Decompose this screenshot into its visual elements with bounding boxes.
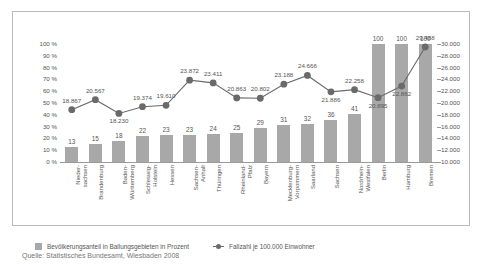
y-right-tick-16000: 16.000 — [441, 124, 481, 130]
x-axis-label: Schleswig-Holstein — [145, 165, 159, 229]
line-value-label: 22.862 — [385, 91, 419, 97]
y-left-tick-70: 70 % — [31, 76, 57, 82]
y-right-tick-28000: 28.000 — [441, 53, 481, 59]
y-right-tickmark — [437, 56, 441, 57]
x-axis-label: Thüringen — [216, 165, 223, 229]
line-value-label: 24.666 — [290, 63, 324, 69]
line-marker — [375, 94, 382, 101]
line-marker — [163, 102, 170, 109]
x-axis-label-line: Thüringen — [216, 165, 223, 229]
x-axis-baseline — [60, 162, 439, 163]
x-axis-label: Saarland — [310, 165, 317, 229]
y-right-tickmark — [437, 79, 441, 80]
x-axis-label-line: Brandenburg — [98, 165, 105, 229]
x-axis-label-line: Holstein — [152, 165, 159, 229]
chart-figure: 0 %10 %20 %30 %40 %50 %60 %70 %80 %90 %1… — [0, 0, 484, 276]
y-left-tick-0: 0 % — [31, 159, 57, 165]
y-right-tick-22000: 22.000 — [441, 88, 481, 94]
legend-bar-label: Bevölkerungsanteil in Ballungsgebieten i… — [47, 243, 189, 250]
x-axis-label-line: Westfalen — [364, 165, 371, 229]
line-marker — [68, 106, 75, 113]
x-axis-label: Mecklenburg-Vorpommern — [287, 165, 301, 229]
x-axis-label-line: Württemberg — [129, 165, 136, 229]
line-value-label: 23.411 — [196, 71, 230, 77]
line-value-label: 20.895 — [361, 103, 395, 109]
legend-bar-swatch-icon — [35, 243, 42, 250]
legend-line-label: Fallzahl je 100.000 Einwohner — [229, 243, 315, 250]
x-axis-label: Nordrhein-Westfalen — [358, 165, 372, 229]
y-left-tick-60: 60 % — [31, 88, 57, 94]
y-right-tick-12000: 12.000 — [441, 147, 481, 153]
line-value-label: 20.802 — [243, 86, 277, 92]
y-right-tickmark — [437, 150, 441, 151]
x-axis-label: Bremen — [428, 165, 435, 229]
line-marker — [257, 95, 264, 102]
line-marker — [280, 81, 287, 88]
y-left-tick-20: 20 % — [31, 135, 57, 141]
y-right-tick-20000: 20.000 — [441, 100, 481, 106]
x-axis-label: Berlin — [381, 165, 388, 229]
x-axis-label: Hessen — [169, 165, 176, 229]
y-left-tick-10: 10 % — [31, 147, 57, 153]
y-right-tickmark — [437, 91, 441, 92]
line-marker — [304, 72, 311, 79]
x-axis-label-line: Anhalt — [199, 165, 206, 229]
x-axis-label-line: Berlin — [381, 165, 388, 229]
line-value-label: 20.567 — [78, 88, 112, 94]
line-marker — [210, 79, 217, 86]
line-value-label: 21.886 — [314, 97, 348, 103]
line-marker — [92, 96, 99, 103]
y-right-tickmark — [437, 138, 441, 139]
x-axis-label-line: Hessen — [169, 165, 176, 229]
line-value-label: 18.230 — [102, 118, 136, 124]
y-right-tick-26000: 26.000 — [441, 65, 481, 71]
legend-line-marker-icon — [213, 243, 224, 250]
y-right-tickmark — [437, 44, 441, 45]
line-marker — [328, 88, 335, 95]
x-axis-label-line: Bremen — [428, 165, 435, 229]
y-left-tick-40: 40 % — [31, 112, 57, 118]
x-axis-label: Brandenburg — [98, 165, 105, 229]
x-axis-label-line: Saarland — [310, 165, 317, 229]
line-value-label: 22.258 — [338, 78, 372, 84]
x-axis-label: Rheinland-Pfalz — [240, 165, 254, 229]
line-value-label: 18.867 — [55, 98, 89, 104]
line-value-label: 19.610 — [149, 93, 183, 99]
y-right-tick-18000: 18.000 — [441, 112, 481, 118]
line-series: 18.86720.56718.23019.37419.61023.87223.4… — [60, 44, 437, 162]
y-left-tick-100: 100 % — [31, 41, 57, 47]
y-right-tickmark — [437, 103, 441, 104]
x-axis-label-line: Vorpommern — [294, 165, 301, 229]
x-axis-label-line: Sachsen — [334, 165, 341, 229]
line-marker — [233, 95, 240, 102]
x-axis-label-line: Nieder- — [75, 165, 82, 229]
x-axis-label: Baden-Württemberg — [122, 165, 136, 229]
x-axis-label-line: Rheinland- — [240, 165, 247, 229]
x-axis-label: Sachsen-Anhalt — [193, 165, 207, 229]
y-right-tick-10000: 10.000 — [441, 159, 481, 165]
line-value-label: 23.188 — [267, 72, 301, 78]
y-right-tickmark — [437, 127, 441, 128]
line-marker — [422, 44, 429, 51]
x-axis-label-line: Sachsen- — [193, 165, 200, 229]
line-value-label: 29.488 — [408, 35, 442, 41]
y-right-tickmark — [437, 115, 441, 116]
y-left-tick-90: 90 % — [31, 53, 57, 59]
line-marker — [351, 86, 358, 93]
x-axis-label-line: Pfalz — [247, 165, 254, 229]
source-note: Quelle: Statistisches Bundesamt, Wiesbad… — [22, 252, 179, 259]
y-left-tick-30: 30 % — [31, 124, 57, 130]
y-right-tick-24000: 24.000 — [441, 76, 481, 82]
y-left-tick-50: 50 % — [31, 100, 57, 106]
x-axis-label-line: Hamburg — [405, 165, 412, 229]
x-axis-label-line: Baden- — [122, 165, 129, 229]
y-right-tick-30000: 30.000 — [441, 41, 481, 47]
line-marker — [186, 77, 193, 84]
x-axis-label-line: Mecklenburg- — [287, 165, 294, 229]
x-axis-label: Nieder-sachsen — [75, 165, 89, 229]
x-axis-label: Hamburg — [405, 165, 412, 229]
line-marker — [139, 103, 146, 110]
x-axis-label: Sachsen — [334, 165, 341, 229]
y-left-tick-80: 80 % — [31, 65, 57, 71]
x-axis-label: Bayern — [263, 165, 270, 229]
